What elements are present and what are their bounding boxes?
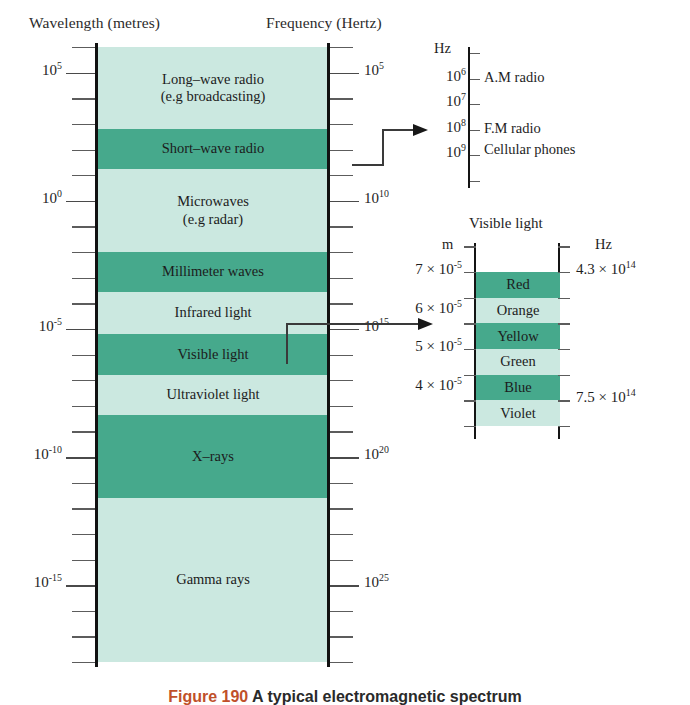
visible-right-tick-1 (558, 272, 570, 273)
visible-frequency-tick-label-1: 7.5 × 1014 (576, 389, 636, 406)
visible-left-tick-1 (464, 272, 476, 273)
visible-left-tick-5 (464, 375, 476, 376)
visible-wavelength-tick-label-2: 5 × 10-5 (360, 338, 462, 355)
visible-left-tick-4 (464, 349, 476, 350)
visible-wavelength-tick-label-1: 6 × 10-5 (360, 300, 462, 317)
visible-right-tick-4 (558, 349, 570, 350)
figure-caption: Figure 190 A typical electromagnetic spe… (0, 688, 690, 705)
caption-text: A typical electromagnetic spectrum (252, 688, 522, 705)
visible-left-tick-6 (464, 400, 476, 401)
visible-left-tick-2 (464, 298, 476, 299)
electromagnetic-spectrum-figure: Wavelength (metres) Frequency (Hertz) Lo… (0, 0, 690, 705)
visible-right-tick-7 (558, 426, 570, 427)
visible-right-tick-0 (558, 246, 570, 247)
visible-right-tick-5 (558, 375, 570, 376)
visible-inset-ticks: 7 × 10-56 × 10-55 × 10-54 × 10-54.3 × 10… (0, 0, 690, 705)
visible-frequency-tick-label-0: 4.3 × 1014 (576, 261, 636, 278)
visible-left-tick-7 (464, 426, 476, 427)
visible-wavelength-tick-label-3: 4 × 10-5 (360, 377, 462, 394)
visible-right-tick-2 (558, 298, 570, 299)
visible-left-tick-3 (464, 323, 476, 324)
visible-wavelength-tick-label-0: 7 × 10-5 (360, 261, 462, 278)
visible-left-tick-0 (464, 246, 476, 247)
visible-right-tick-3 (558, 323, 570, 324)
caption-label: Figure 190 (168, 688, 248, 705)
visible-right-tick-6 (558, 400, 570, 401)
